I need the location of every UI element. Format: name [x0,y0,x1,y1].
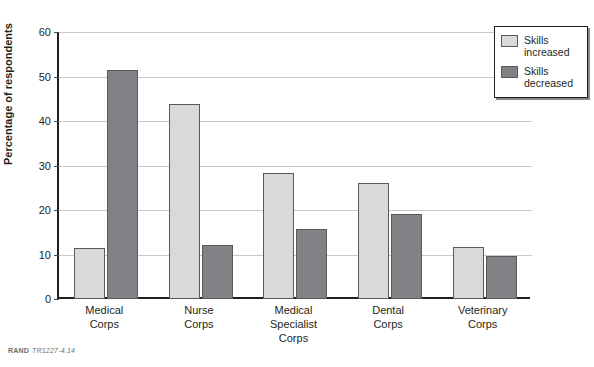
bar [296,229,327,299]
y-axis-tick-label: 10 [39,249,51,261]
legend-label-line2: increased [524,46,570,58]
footer-organization: RAND [8,347,29,354]
bar [169,104,200,299]
chart-legend: Skills increased Skills decreased [494,26,588,98]
x-axis-category-label-line: Medical [246,303,341,317]
x-axis-category-label: MedicalCorps [57,303,152,331]
bar-group [154,32,249,299]
x-axis-category-label-line: Specialist [246,317,341,331]
y-axis-tick [54,299,59,300]
bar [202,245,233,299]
y-axis-tick-label: 20 [39,204,51,216]
legend-label-line1: Skills [524,65,549,77]
x-axis-category-label-line: Medical [57,303,152,317]
x-axis-category-label-line: Nurse [152,303,247,317]
x-axis-category-label-line: Corps [341,317,436,331]
figure-source-footer: RANDTR1227-4.14 [8,347,75,354]
y-axis-tick-label: 50 [39,71,51,83]
y-axis-title: Percentage of respondents [2,23,14,165]
bar [107,70,138,299]
x-axis-category-label-line: Dental [341,303,436,317]
x-axis-category-label-line: Corps [435,317,530,331]
y-axis-tick-label: 0 [45,293,51,305]
legend-item-skills-decreased: Skills decreased [501,65,581,89]
y-axis-tick-label: 40 [39,115,51,127]
x-axis-category-label: MedicalSpecialistCorps [246,303,341,345]
bar-group [343,32,438,299]
legend-item-label: Skills decreased [524,65,573,89]
legend-label-line1: Skills [524,34,549,46]
clipped-figure-title [70,0,370,2]
bar-group [248,32,343,299]
x-axis-category-label-line: Corps [152,317,247,331]
x-axis-category-label-line: Veterinary [435,303,530,317]
bar-group [59,32,154,299]
y-axis-tick-label: 30 [39,160,51,172]
x-axis-category-label-line: Corps [57,317,152,331]
bar [453,247,484,299]
bar [74,248,105,299]
bar-series-layer [59,32,532,299]
plot-area: 0102030405060 [57,32,530,299]
x-axis-category-label: DentalCorps [341,303,436,331]
legend-swatch-icon [501,35,518,47]
x-axis-category-label: VeterinaryCorps [435,303,530,331]
bar [358,183,389,299]
x-axis-category-label-line: Corps [246,331,341,345]
bar [263,173,294,299]
x-axis-category-label: NurseCorps [152,303,247,331]
x-axis-category-labels: MedicalCorpsNurseCorpsMedicalSpecialistC… [57,303,530,359]
legend-label-line2: decreased [524,77,573,89]
y-axis-tick-label: 60 [39,26,51,38]
legend-swatch-icon [501,66,518,78]
legend-item-skills-increased: Skills increased [501,34,581,58]
footer-figure-number: TR1227-4.14 [32,347,75,354]
legend-item-label: Skills increased [524,34,570,58]
bar [486,256,517,299]
bar [391,214,422,299]
